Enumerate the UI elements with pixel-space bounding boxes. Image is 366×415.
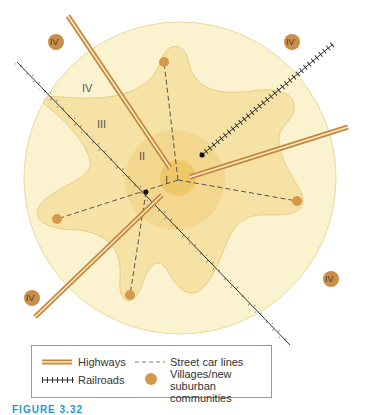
legend-highways: Highways bbox=[78, 356, 126, 368]
svg-text:IV: IV bbox=[50, 37, 59, 47]
figure-caption: FIGURE 3.32 bbox=[12, 404, 83, 415]
village-marker bbox=[125, 290, 135, 300]
svg-text:I: I bbox=[165, 174, 168, 186]
legend-villages-line2: suburban communities bbox=[170, 380, 271, 404]
svg-text:IV: IV bbox=[325, 274, 334, 284]
streetcar-legend-icon bbox=[135, 358, 165, 366]
svg-text:III: III bbox=[97, 118, 106, 130]
village-marker bbox=[159, 57, 169, 67]
village-marker bbox=[292, 196, 302, 206]
railroad-legend-icon bbox=[42, 376, 74, 384]
legend-street-car-lines: Street car lines bbox=[170, 356, 243, 368]
legend-railroads: Railroads bbox=[78, 374, 124, 386]
legend-villages-line1: Villages/new bbox=[170, 368, 232, 380]
village-legend-icon bbox=[144, 372, 158, 386]
svg-text:IV: IV bbox=[286, 37, 295, 47]
svg-text:II: II bbox=[139, 150, 145, 162]
village-marker bbox=[52, 214, 62, 224]
legend: Highways Street car lines Railroads Vill… bbox=[31, 345, 272, 398]
svg-text:IV: IV bbox=[82, 82, 93, 94]
svg-text:IV: IV bbox=[26, 293, 35, 303]
highway-legend-icon bbox=[42, 358, 72, 366]
